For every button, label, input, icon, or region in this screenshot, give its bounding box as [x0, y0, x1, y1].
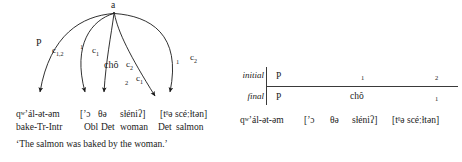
strata-initial-cell-3: 2: [435, 75, 438, 82]
gloss-morpheme-5: Det: [158, 121, 172, 134]
gloss-surface-word-2: [ʼɔ: [80, 108, 91, 121]
arc-coordinate-c12-sub: 1,2: [56, 51, 64, 57]
strata-gloss-word-4: sɫéniʔ]: [352, 114, 377, 127]
strata-final-cell-1: P: [276, 93, 281, 103]
gloss-morpheme-1: bake-Tr-Intr: [16, 121, 62, 134]
arc-coordinate-c2-center: c2: [126, 60, 133, 71]
stratum-number-lower: 2: [125, 80, 128, 87]
arc-coordinate-c2-center-sub: 2: [130, 65, 133, 71]
strata-initial-cell-1: P: [276, 72, 281, 82]
arc-path-cho: [104, 14, 114, 93]
strata-row-label-final: final: [220, 92, 264, 101]
stratum-number-right: 1: [176, 59, 179, 66]
strata-gloss-word-2: [ʼɔ: [304, 114, 315, 127]
arc-coordinate-c1-left-sub: 1: [96, 51, 99, 57]
free-translation: ‘The salmon was baked by the woman.’: [16, 138, 168, 151]
strata-gloss-word-5: [tᶿə scéːɫtən]: [392, 114, 439, 127]
strata-gloss-word-3: θə: [330, 114, 339, 127]
arc-coordinate-c12: c1,2: [52, 46, 64, 57]
arc-diagram-svg: [0, 0, 236, 112]
gloss-morpheme-3: Det: [101, 121, 115, 134]
gloss-line-surface: qʷʼál-ət-əm [ʼɔ θə sɫéniʔ] [tᶿə scéːɫtən…: [0, 108, 236, 121]
gloss-morpheme-6: salmon: [176, 121, 203, 134]
strata-horizontal-rule: [266, 86, 458, 87]
gloss-surface-word-4: sɫéniʔ]: [120, 108, 145, 121]
root-node-label: a: [111, 1, 115, 11]
strata-gloss-word-1: qʷʼál-ət-əm: [240, 114, 284, 127]
arc-coordinate-c1-lower: c1: [136, 74, 143, 85]
strata-row-label-initial: initial: [220, 71, 264, 80]
gloss-morpheme-4: woman: [120, 121, 148, 134]
arc-coordinate-c2-right: c2: [190, 53, 197, 64]
gloss-surface-word-1: qʷʼál-ət-əm: [16, 108, 60, 121]
arc-coordinate-c1-lower-sub: 1: [140, 79, 143, 85]
strata-final-cell-2: chô: [350, 92, 364, 102]
gloss-line-morphemes: bake-Tr-Intr Obl Det woman Det salmon: [0, 121, 236, 134]
gloss-surface-word-5: [tᶿə scéːɫtən]: [160, 108, 207, 121]
arc-path-2: [115, 14, 173, 93]
stratal-chart: initial final P 1 2 P chô 1: [228, 66, 462, 112]
strata-initial-cell-2: 1: [361, 75, 364, 82]
arc-label-p: P: [36, 38, 42, 48]
arc-label-cho: chô: [104, 60, 118, 70]
interlinear-gloss: qʷʼál-ət-əm [ʼɔ θə sɫéniʔ] [tᶿə scéːɫtən…: [0, 108, 236, 134]
strata-final-cell-3: 1: [435, 96, 438, 103]
arc-pair-diagram: a P c1,2 1 c1 chô c2 2 c1 1 c2: [0, 0, 236, 112]
arc-path-1b: [115, 14, 156, 96]
arc-coordinate-c2-right-sub: 2: [194, 58, 197, 64]
figure-root: a P c1,2 1 c1 chô c2 2 c1 1 c2 qʷʼál-ət-…: [0, 0, 462, 162]
gloss-morpheme-2: Obl: [84, 121, 98, 134]
stratum-number-left: 1: [80, 44, 83, 51]
gloss-surface-word-3: θə: [98, 108, 107, 121]
arc-coordinate-c1-left: c1: [92, 46, 99, 57]
